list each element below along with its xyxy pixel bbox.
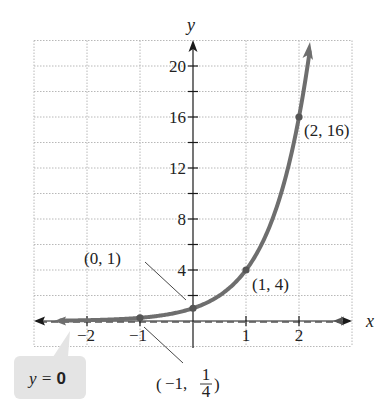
data-point: [189, 305, 196, 312]
y-tick-label: 8: [178, 210, 187, 229]
x-tick-labels: −2 −1 1 2: [77, 326, 303, 345]
y-tick-label: 16: [169, 108, 186, 127]
y-tick-label: 20: [169, 57, 186, 76]
leader-line-m1: [144, 327, 183, 363]
point-label-m1-quarter: ( −1, 1 4 ): [156, 365, 220, 401]
svg-text:(: (: [156, 375, 162, 394]
x-tick-label: −1: [129, 326, 147, 345]
x-tick-label: 1: [242, 326, 251, 345]
data-point: [295, 113, 302, 120]
callout-equation: y = 0: [27, 369, 66, 388]
exponential-graph: y = 0 −2 −1 1 2 4 8 12 16 20 x y (0,: [0, 0, 384, 415]
data-point: [136, 314, 143, 321]
y-tick-label: 12: [169, 159, 186, 178]
x-axis-label: x: [365, 311, 374, 331]
svg-text:4: 4: [202, 382, 211, 401]
y-axis-label: y: [185, 15, 195, 35]
x-tick-label: 2: [295, 326, 304, 345]
point-label-2-16: (2, 16): [304, 121, 349, 140]
svg-text:−1,: −1,: [165, 374, 187, 393]
y-tick-labels: 4 8 12 16 20: [169, 57, 187, 280]
callout-pointer: [53, 331, 70, 357]
y-tick-label: 4: [178, 261, 187, 280]
point-label-1-4: (1, 4): [252, 275, 289, 294]
svg-text:): ): [214, 375, 220, 394]
data-point: [242, 266, 249, 273]
asymptote-callout: y = 0: [14, 331, 86, 399]
point-label-0-1: (0, 1): [84, 249, 121, 268]
x-tick-label: −2: [77, 326, 95, 345]
